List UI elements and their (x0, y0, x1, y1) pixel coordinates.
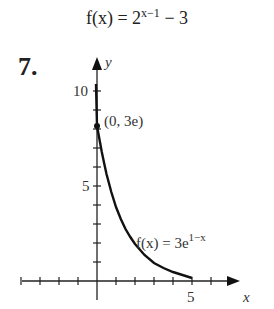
y-axis-arrow-icon (92, 57, 102, 70)
point-marker (94, 123, 100, 129)
function-graph: (0, 3e) 10 5 5 y x f(x) = 3e1−x (0, 0, 274, 309)
x-tick-label-5: 5 (187, 289, 195, 305)
y-axis-label: y (103, 54, 112, 70)
y-tick-label-5: 5 (82, 178, 90, 194)
x-axis-arrow-icon (227, 276, 240, 286)
x-axis-label: x (242, 289, 250, 305)
curve-label-base: f(x) = 3e (136, 235, 189, 252)
curve-label: f(x) = 3e1−x (136, 231, 206, 252)
point-label: (0, 3e) (104, 113, 143, 130)
curve-label-exponent: 1−x (189, 231, 207, 243)
y-tick-label-10: 10 (73, 83, 88, 99)
